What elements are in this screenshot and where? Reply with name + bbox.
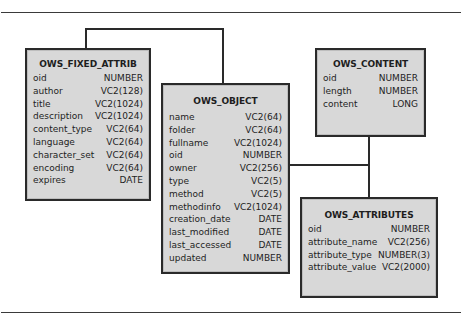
entity-title: OWS_ATTRIBUTES xyxy=(302,210,436,220)
column-type: VC2(256) xyxy=(378,236,436,249)
column-type: VC2(256) xyxy=(233,162,288,175)
connector-fixed-attrib-up xyxy=(85,28,87,49)
column-name: expires xyxy=(27,174,95,187)
top-rule xyxy=(1,12,461,13)
entity-title: OWS_FIXED_ATTRIB xyxy=(27,59,149,69)
connector-object-down xyxy=(222,28,224,84)
column-name: owner xyxy=(163,162,233,175)
column-type: NUMBER(3) xyxy=(378,249,436,262)
column-name: content xyxy=(317,98,368,111)
column-name: attribute_type xyxy=(302,249,378,262)
entity-title: OWS_OBJECT xyxy=(163,96,288,106)
column-name: author xyxy=(27,85,95,98)
column-name: type xyxy=(163,175,233,188)
column-row: character_setVC2(64) xyxy=(27,149,149,162)
column-name: title xyxy=(27,98,95,111)
column-type: VC2(2000) xyxy=(378,261,436,274)
column-row: nameVC2(64) xyxy=(163,111,288,124)
column-type: NUMBER xyxy=(368,85,424,98)
column-type: DATE xyxy=(233,226,288,239)
column-type: DATE xyxy=(95,174,149,187)
column-row: encodingVC2(64) xyxy=(27,162,149,175)
column-row: oidNUMBER xyxy=(302,223,436,236)
column-list: oidNUMBER lengthNUMBER contentLONG xyxy=(317,72,424,110)
column-type: NUMBER xyxy=(95,72,149,85)
column-name: fullname xyxy=(163,137,233,150)
column-type: VC2(1024) xyxy=(95,110,149,123)
entity-ows-content[interactable]: OWS_CONTENT oidNUMBER lengthNUMBER conte… xyxy=(315,48,426,137)
column-row: content_typeVC2(64) xyxy=(27,123,149,136)
column-name: method xyxy=(163,188,233,201)
column-name: oid xyxy=(27,72,95,85)
column-name: updated xyxy=(163,252,233,265)
column-row: last_accessedDATE xyxy=(163,239,288,252)
column-name: attribute_name xyxy=(302,236,378,249)
column-type: VC2(64) xyxy=(95,162,149,175)
column-row: expiresDATE xyxy=(27,174,149,187)
column-row: updatedNUMBER xyxy=(163,252,288,265)
column-row: attribute_valueVC2(2000) xyxy=(302,261,436,274)
column-type: VC2(64) xyxy=(95,149,149,162)
column-name: attribute_value xyxy=(302,261,378,274)
column-name: encoding xyxy=(27,162,95,175)
column-name: oid xyxy=(302,223,378,236)
column-name: creation_date xyxy=(163,213,233,226)
column-type: VC2(1024) xyxy=(233,137,288,150)
column-row: languageVC2(64) xyxy=(27,136,149,149)
column-name: language xyxy=(27,136,95,149)
column-type: VC2(1024) xyxy=(95,98,149,111)
bottom-rule xyxy=(1,312,461,313)
entity-ows-fixed-attrib[interactable]: OWS_FIXED_ATTRIB oidNUMBER authorVC2(128… xyxy=(25,48,151,201)
column-name: oid xyxy=(163,149,233,162)
column-row: lengthNUMBER xyxy=(317,85,424,98)
column-name: length xyxy=(317,85,368,98)
column-name: last_modified xyxy=(163,226,233,239)
column-type: VC2(5) xyxy=(233,175,288,188)
column-name: methodinfo xyxy=(163,201,233,214)
column-row: methodinfoVC2(1024) xyxy=(163,201,288,214)
column-row: last_modifiedDATE xyxy=(163,226,288,239)
column-type: VC2(1024) xyxy=(233,201,288,214)
column-name: description xyxy=(27,110,95,123)
column-type: NUMBER xyxy=(368,72,424,85)
entity-ows-attributes[interactable]: OWS_ATTRIBUTES oidNUMBER attribute_nameV… xyxy=(300,197,438,298)
column-name: character_set xyxy=(27,149,95,162)
column-row: oidNUMBER xyxy=(317,72,424,85)
column-name: oid xyxy=(317,72,368,85)
column-name: name xyxy=(163,111,233,124)
column-row: attribute_typeNUMBER(3) xyxy=(302,249,436,262)
column-type: VC2(64) xyxy=(95,136,149,149)
entity-ows-object[interactable]: OWS_OBJECT nameVC2(64) folderVC2(64) ful… xyxy=(161,83,290,274)
column-type: LONG xyxy=(368,98,424,111)
column-type: NUMBER xyxy=(233,149,288,162)
column-list: oidNUMBER attribute_nameVC2(256) attribu… xyxy=(302,223,436,274)
column-name: content_type xyxy=(27,123,95,136)
column-type: NUMBER xyxy=(233,252,288,265)
column-row: descriptionVC2(1024) xyxy=(27,110,149,123)
column-type: DATE xyxy=(233,213,288,226)
column-row: authorVC2(128) xyxy=(27,85,149,98)
column-row: titleVC2(1024) xyxy=(27,98,149,111)
column-row: folderVC2(64) xyxy=(163,124,288,137)
column-row: oidNUMBER xyxy=(163,149,288,162)
column-row: ownerVC2(256) xyxy=(163,162,288,175)
column-list: oidNUMBER authorVC2(128) titleVC2(1024) … xyxy=(27,72,149,187)
column-row: attribute_nameVC2(256) xyxy=(302,236,436,249)
column-type: VC2(128) xyxy=(95,85,149,98)
column-row: creation_dateDATE xyxy=(163,213,288,226)
column-type: DATE xyxy=(233,239,288,252)
column-row: fullnameVC2(1024) xyxy=(163,137,288,150)
column-row: oidNUMBER xyxy=(27,72,149,85)
column-type: VC2(64) xyxy=(233,124,288,137)
column-type: VC2(64) xyxy=(95,123,149,136)
column-name: folder xyxy=(163,124,233,137)
connector-content-attributes xyxy=(368,135,370,198)
column-list: nameVC2(64) folderVC2(64) fullnameVC2(10… xyxy=(163,111,288,265)
connector-object-right xyxy=(288,164,370,166)
column-type: VC2(64) xyxy=(233,111,288,124)
column-name: last_accessed xyxy=(163,239,233,252)
column-row: typeVC2(5) xyxy=(163,175,288,188)
column-type: VC2(5) xyxy=(233,188,288,201)
column-type: NUMBER xyxy=(378,223,436,236)
column-row: contentLONG xyxy=(317,98,424,111)
